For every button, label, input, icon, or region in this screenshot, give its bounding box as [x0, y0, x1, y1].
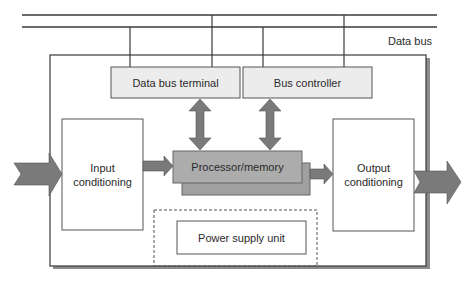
data-bus-terminal-label: Data bus terminal — [111, 67, 240, 98]
data-bus-label: Data bus — [380, 34, 440, 48]
output-conditioning-label: Output conditioning — [333, 119, 414, 231]
input-conditioning-label: Input conditioning — [62, 119, 143, 230]
bus-controller-label: Bus controller — [243, 67, 372, 98]
power-supply-unit-label: Power supply unit — [177, 221, 306, 254]
processor-memory-label: Processor/memory — [173, 151, 302, 183]
